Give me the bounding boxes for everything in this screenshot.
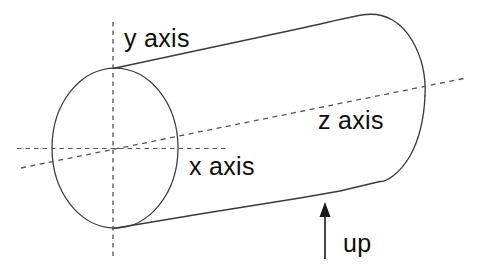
cylinder-right-cap [380, 96, 425, 182]
z-axis-label: z axis [318, 108, 384, 133]
y-axis-label: y axis [124, 26, 190, 51]
diagram-canvas: y axis x axis z axis up [0, 0, 481, 275]
up-arrow-head [320, 202, 331, 217]
up-direction-label: up [343, 231, 371, 256]
arrow-up-icon [320, 202, 331, 259]
coordinate-axes [17, 22, 466, 256]
x-axis-label: x axis [189, 154, 255, 179]
cylinder-bottom-edge [113, 182, 380, 229]
cylinder-axes-drawing [0, 0, 481, 275]
